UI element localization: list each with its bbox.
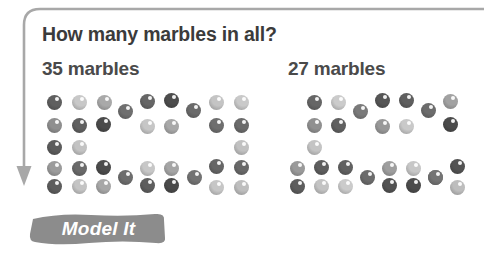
right-marble xyxy=(290,179,305,194)
right-marble xyxy=(406,178,421,193)
right-marble xyxy=(382,161,397,176)
right-marble xyxy=(314,179,329,194)
right-marble xyxy=(443,117,458,132)
right-marble xyxy=(338,160,353,175)
right-marble xyxy=(399,93,414,108)
right-marble xyxy=(450,159,465,174)
right-marble xyxy=(382,178,397,193)
right-marble xyxy=(360,170,375,185)
right-marble xyxy=(406,161,421,176)
right-marble xyxy=(331,118,346,133)
worksheet-page: How many marbles in all? 35 marbles 27 m… xyxy=(0,0,484,262)
right-marble xyxy=(338,179,353,194)
right-marble xyxy=(307,118,322,133)
right-marble xyxy=(443,94,458,109)
right-marble xyxy=(290,161,305,176)
right-marble xyxy=(307,140,322,155)
right-marble xyxy=(428,170,443,185)
right-marble xyxy=(353,104,368,119)
right-marble xyxy=(375,119,390,134)
right-marble xyxy=(331,95,346,110)
right-marble xyxy=(375,93,390,108)
right-marble xyxy=(307,95,322,110)
right-marble xyxy=(450,180,465,195)
right-marble xyxy=(399,119,414,134)
right-marble xyxy=(421,103,436,118)
right-marble xyxy=(314,160,329,175)
model-it-label: Model It xyxy=(29,212,168,246)
model-it-badge[interactable]: Model It xyxy=(29,212,168,246)
